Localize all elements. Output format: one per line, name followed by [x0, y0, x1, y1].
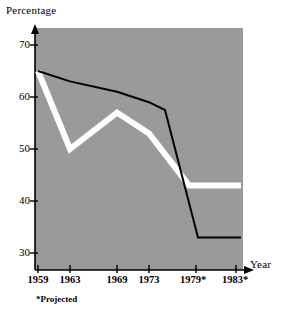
- x-axis-arrow-icon: [244, 266, 254, 274]
- plot-background: [35, 28, 243, 270]
- chart-container: Percentage Year 70 60 50 40 30 1959 1963…: [0, 0, 290, 316]
- plot-area: [0, 0, 290, 316]
